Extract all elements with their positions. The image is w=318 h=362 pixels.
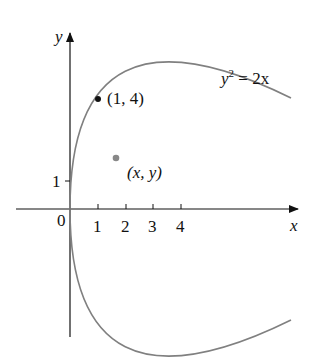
point-label-x-y: (x, y) <box>127 163 162 182</box>
point-1-4 <box>95 96 101 102</box>
x-ticks <box>98 204 181 209</box>
point-label-1-4: (1, 4) <box>107 89 144 108</box>
x-tick-label-2: 2 <box>121 217 130 236</box>
x-tick-label-3: 3 <box>148 217 157 236</box>
equation-lhs: y <box>219 69 229 88</box>
y-tick-label-1: 1 <box>52 172 61 191</box>
equation-rhs: = 2x <box>234 69 270 88</box>
y-axis-label: y <box>53 27 63 46</box>
x-tick-label-1: 1 <box>93 217 102 236</box>
x-tick-label-4: 4 <box>176 217 185 236</box>
equation-label: y2 = 2x <box>219 67 270 88</box>
x-axis-label: x <box>289 216 298 235</box>
origin-label: 0 <box>57 211 66 230</box>
point-x-y <box>113 155 120 162</box>
parabola-diagram: y x 0 1 2 3 4 1 (1, 4) (x, y) y2 = 2x <box>0 0 318 362</box>
